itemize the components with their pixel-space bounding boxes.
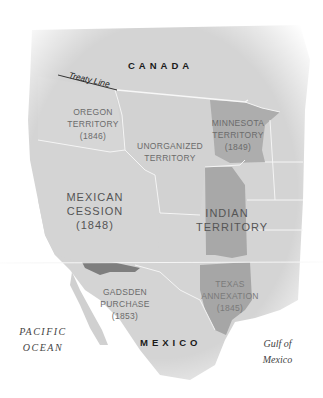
gadsden-line2: PURCHASE <box>95 298 155 310</box>
pacific-line1: PACIFIC <box>18 324 68 340</box>
label-indian-territory: INDIAN TERRITORY <box>196 206 258 234</box>
label-unorganized-territory: UNORGANIZED TERRITORY <box>130 140 210 164</box>
pacific-line2: OCEAN <box>18 340 68 356</box>
minnesota-line2: TERRITORY <box>208 129 268 141</box>
gulf-line1: Gulf of <box>255 336 300 352</box>
mexican-cession-year: (1848) <box>60 218 130 232</box>
minnesota-name: MINNESOTA <box>208 117 268 129</box>
texas-name: TEXAS <box>200 278 260 290</box>
label-oregon-territory: OREGON TERRITORY (1846) <box>58 106 128 142</box>
label-gulf-of-mexico: Gulf of Mexico <box>255 336 300 368</box>
country-label-canada: CANADA <box>128 60 193 71</box>
indian-territory-line2: TERRITORY <box>196 220 258 234</box>
oregon-name: OREGON <box>58 106 128 118</box>
unorganized-line2: TERRITORY <box>130 152 210 164</box>
mexican-cession-line2: CESSION <box>60 204 130 218</box>
texas-line2: ANNEXATION <box>200 290 260 302</box>
label-pacific-ocean: PACIFIC OCEAN <box>18 324 68 356</box>
gadsden-year: (1853) <box>95 310 155 322</box>
label-minnesota-territory: MINNESOTA TERRITORY (1849) <box>208 117 268 153</box>
minnesota-year: (1849) <box>208 141 268 153</box>
unorganized-name: UNORGANIZED <box>130 140 210 152</box>
gadsden-name: GADSDEN <box>95 286 155 298</box>
country-label-mexico: MEXICO <box>140 337 201 348</box>
label-gadsden-purchase: GADSDEN PURCHASE (1853) <box>95 286 155 322</box>
mexican-cession-name: MEXICAN <box>60 190 130 204</box>
label-mexican-cession: MEXICAN CESSION (1848) <box>60 190 130 232</box>
label-texas-annexation: TEXAS ANNEXATION (1845) <box>200 278 260 314</box>
oregon-line2: TERRITORY <box>58 118 128 130</box>
indian-territory-name: INDIAN <box>196 206 258 220</box>
texas-year: (1845) <box>200 302 260 314</box>
oregon-year: (1846) <box>58 130 128 142</box>
territorial-expansion-map: CANADA Treaty Line OREGON TERRITORY (184… <box>0 0 323 398</box>
gulf-line2: Mexico <box>255 352 300 368</box>
